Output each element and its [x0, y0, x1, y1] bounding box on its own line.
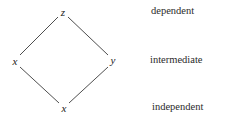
- level-label-independent: independent: [152, 101, 203, 112]
- node-right-y: y: [110, 54, 116, 66]
- edge-left-x-to-bottom-x: [20, 67, 59, 103]
- edge-z-to-left-x: [20, 17, 58, 55]
- node-top-z: z: [60, 6, 66, 18]
- edge-y-to-bottom-x: [69, 67, 108, 103]
- node-bottom-x: x: [61, 102, 67, 114]
- edge-z-to-y: [68, 17, 108, 55]
- node-left-x: x: [12, 55, 18, 67]
- level-label-dependent: dependent: [151, 5, 194, 16]
- level-label-intermediate: intermediate: [150, 54, 202, 65]
